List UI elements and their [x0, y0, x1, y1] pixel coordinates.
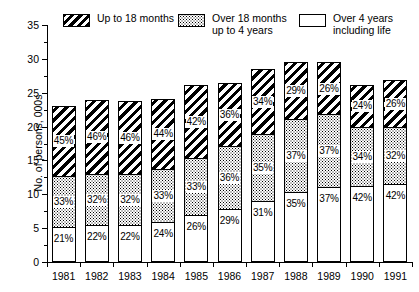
- y-tick-label: 35: [27, 19, 39, 31]
- bar-segment-over-4-years-including-life: 21%: [53, 228, 75, 261]
- x-axis-ticks: 1981198219831984198519861987198819891990…: [47, 262, 412, 292]
- bar-segment-label: 42%: [353, 193, 372, 203]
- y-tick-label: 0: [33, 256, 39, 268]
- x-tick: [246, 262, 247, 267]
- x-tick: [213, 262, 214, 267]
- x-tick-label: 1991: [384, 270, 407, 282]
- bar-segment-label: 33%: [54, 197, 73, 207]
- stacked-bar: 29%37%35%: [284, 62, 308, 262]
- x-tick-label: 1986: [218, 270, 241, 282]
- x-tick-label: 1985: [185, 270, 208, 282]
- x-tick-label: 1988: [284, 270, 307, 282]
- y-tick-label: 10: [27, 188, 39, 200]
- bar-segment-over-18-months-up-to-4-years: 37%: [285, 120, 307, 192]
- stacked-bar: 44%33%24%: [151, 99, 175, 262]
- x-tick: [312, 262, 313, 267]
- y-tick-label: 20: [27, 121, 39, 133]
- bar-segment-label: 29%: [286, 86, 305, 96]
- x-tick: [180, 262, 181, 267]
- bar-segment-over-18-months-up-to-4-years: 37%: [318, 115, 340, 188]
- x-tick-label: 1990: [351, 270, 374, 282]
- bar-segment-label: 42%: [386, 191, 405, 201]
- bar-segment-label: 33%: [187, 182, 206, 192]
- x-tick-label: 1987: [251, 270, 274, 282]
- y-tick-label: 25: [27, 87, 39, 99]
- bar-segment-up-to-18-months: 26%: [318, 63, 340, 115]
- bar-segment-over-4-years-including-life: 22%: [119, 226, 141, 261]
- bar-segment-label: 36%: [220, 173, 239, 183]
- bar-segment-up-to-18-months: 24%: [351, 86, 373, 128]
- bar-segment-label: 21%: [54, 234, 73, 244]
- bar-segment-over-4-years-including-life: 22%: [86, 226, 108, 261]
- stacked-bar: 26%37%37%: [317, 62, 341, 262]
- bar-segment-label: 37%: [319, 194, 338, 204]
- bar-segment-label: 36%: [220, 110, 239, 120]
- bar-segment-label: 26%: [319, 84, 338, 94]
- bar-segment-over-18-months-up-to-4-years: 32%: [384, 128, 406, 186]
- y-tick-label: 15: [27, 154, 39, 166]
- bar-segment-label: 42%: [187, 117, 206, 127]
- bar-segment-up-to-18-months: 29%: [285, 63, 307, 120]
- x-tick-label: 1989: [317, 270, 340, 282]
- bar-segment-label: 24%: [353, 101, 372, 111]
- x-tick: [147, 262, 148, 267]
- x-tick: [412, 262, 413, 267]
- stacked-bar: 46%32%22%: [118, 101, 142, 262]
- plot-area: No. of persons, 000s 05101520253035 45%3…: [47, 25, 412, 262]
- bar-segment-label: 37%: [319, 146, 338, 156]
- bar-segment-label: 29%: [220, 216, 239, 226]
- x-tick: [379, 262, 380, 267]
- stacked-bar: 42%33%26%: [184, 85, 208, 262]
- bar-segment-label: 37%: [286, 151, 305, 161]
- bar-segment-over-18-months-up-to-4-years: 33%: [185, 159, 207, 217]
- bar-segment-over-4-years-including-life: 24%: [152, 223, 174, 261]
- bar-segment-over-18-months-up-to-4-years: 33%: [53, 177, 75, 228]
- bar-segment-up-to-18-months: 46%: [119, 102, 141, 176]
- x-tick-label: 1984: [151, 270, 174, 282]
- x-tick-label: 1982: [85, 270, 108, 282]
- bar-segment-label: 22%: [87, 232, 106, 242]
- bar-segment-label: 35%: [253, 163, 272, 173]
- y-axis-title: No. of persons, 000s: [32, 95, 44, 192]
- legend-label-up-to-18-months: Up to 18 months: [97, 13, 174, 25]
- bar-segment-up-to-18-months: 42%: [185, 86, 207, 159]
- x-tick: [47, 262, 48, 267]
- bar-segment-up-to-18-months: 44%: [152, 100, 174, 170]
- bar-segment-over-4-years-including-life: 29%: [219, 210, 241, 261]
- y-tick-label: 5: [33, 222, 39, 234]
- bars-container: 45%33%21%46%32%22%46%32%22%44%33%24%42%3…: [47, 25, 412, 262]
- bar-segment-label: 32%: [120, 195, 139, 205]
- bar-segment-label: 34%: [353, 152, 372, 162]
- stacked-bar-chart: Up to 18 months Over 18 months up to 4 y…: [0, 0, 419, 292]
- y-tick-label: 30: [27, 53, 39, 65]
- bar-segment-over-4-years-including-life: 35%: [285, 193, 307, 261]
- x-tick: [113, 262, 114, 267]
- bar-segment-label: 45%: [54, 136, 73, 146]
- bar-segment-label: 26%: [187, 222, 206, 232]
- bar-segment-up-to-18-months: 46%: [86, 101, 108, 175]
- stacked-bar: 46%32%22%: [85, 100, 109, 262]
- bar-segment-over-4-years-including-life: 31%: [252, 202, 274, 261]
- x-tick-label: 1981: [52, 270, 75, 282]
- x-tick: [346, 262, 347, 267]
- bar-segment-over-18-months-up-to-4-years: 33%: [152, 170, 174, 223]
- bar-segment-label: 33%: [153, 191, 172, 201]
- stacked-bar: 24%34%42%: [350, 85, 374, 262]
- bar-segment-label: 46%: [87, 132, 106, 142]
- bar-segment-up-to-18-months: 26%: [384, 81, 406, 128]
- x-tick: [80, 262, 81, 267]
- bar-segment-label: 32%: [386, 151, 405, 161]
- bar-segment-over-18-months-up-to-4-years: 35%: [252, 135, 274, 202]
- bar-segment-over-18-months-up-to-4-years: 32%: [86, 175, 108, 226]
- bar-segment-label: 24%: [153, 229, 172, 239]
- bar-segment-label: 26%: [386, 99, 405, 109]
- stacked-bar: 26%32%42%: [383, 80, 407, 262]
- bar-segment-up-to-18-months: 36%: [219, 84, 241, 147]
- bar-segment-label: 35%: [286, 199, 305, 209]
- stacked-bar: 45%33%21%: [52, 106, 76, 262]
- bar-segment-over-4-years-including-life: 42%: [384, 185, 406, 261]
- stacked-bar: 34%35%31%: [251, 69, 275, 262]
- x-tick: [279, 262, 280, 267]
- bar-segment-label: 46%: [120, 133, 139, 143]
- bar-segment-up-to-18-months: 45%: [53, 107, 75, 177]
